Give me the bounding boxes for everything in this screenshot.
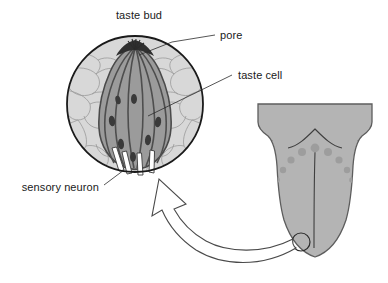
papilla xyxy=(311,144,320,153)
papilla xyxy=(324,148,332,156)
tongue-outline xyxy=(258,104,372,257)
magnification-arrow xyxy=(152,179,296,263)
papilla xyxy=(298,148,306,156)
label-taste-cell: taste cell xyxy=(238,69,282,81)
papilla xyxy=(335,156,342,163)
papilla xyxy=(287,156,294,163)
label-pore: pore xyxy=(220,29,242,41)
tongue-diagram xyxy=(258,104,372,257)
diagram-canvas: taste bud pore taste cell sensory neuron xyxy=(0,0,388,283)
left-furrow xyxy=(268,140,272,174)
papilla xyxy=(274,177,280,183)
right-furrow xyxy=(358,140,362,174)
label-sensory-neuron: sensory neuron xyxy=(22,181,99,193)
arrow-shape xyxy=(152,179,296,263)
sensory-neuron-leader-line xyxy=(104,170,124,185)
taste-bud-diagram xyxy=(62,36,207,175)
papilla xyxy=(344,167,350,173)
nucleus xyxy=(131,94,137,104)
label-taste-bud: taste bud xyxy=(116,9,162,21)
papilla xyxy=(280,167,286,173)
taste-bud-figure: taste bud pore taste cell sensory neuron xyxy=(0,0,388,283)
nucleus xyxy=(130,152,136,162)
